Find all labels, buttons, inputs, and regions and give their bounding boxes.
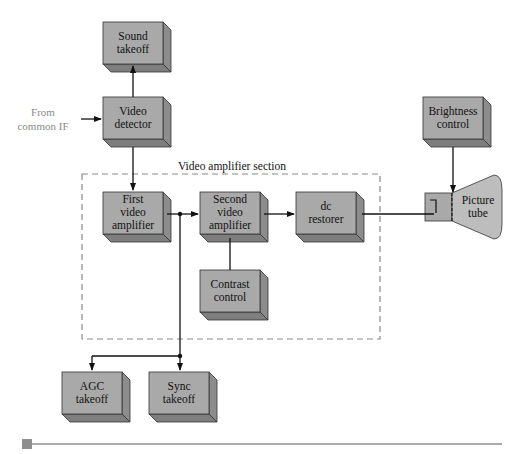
label-picture-tube: Picture tube: [455, 194, 501, 220]
label-sync-takeoff: Sync takeoff: [149, 380, 209, 406]
junction-dot: [178, 354, 182, 358]
label-first-video-amplifier: First video amplifier: [103, 193, 163, 232]
label-video-detector: Video detector: [103, 105, 163, 131]
label-dc-restorer: dc restorer: [296, 200, 356, 226]
label-second-video-amplifier: Second video amplifier: [200, 193, 260, 232]
label-contrast-control: Contrast control: [200, 278, 260, 304]
label-agc-takeoff: AGC takeoff: [62, 380, 122, 406]
input-label-from-common-if: From common IF: [4, 105, 82, 133]
section-label: Video amplifier section: [178, 160, 286, 172]
label-brightness-control: Brightness control: [418, 105, 488, 131]
label-sound-takeoff: Sound takeoff: [103, 30, 163, 56]
junction-dot: [178, 212, 182, 216]
footer-rule-marker: [22, 439, 32, 449]
